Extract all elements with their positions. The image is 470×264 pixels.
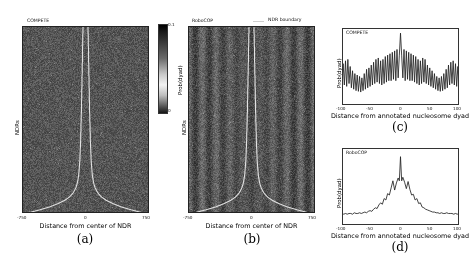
panel-c-ylabel: Prob(dyad) (336, 58, 342, 88)
panel-b-inset-label: RoboCOP (191, 18, 214, 23)
panel-c-tag: (c) (380, 120, 420, 134)
panel-b-ylabel: NDRs (181, 120, 187, 135)
panel-b-xtick-mid: 0 (250, 215, 253, 220)
panel-d-inset-label: RoboCOP (345, 150, 368, 155)
panel-d-xtick-0: -100 (336, 226, 346, 231)
panel-c-xtick-4: 100 (453, 106, 461, 111)
panel-a-xlabel: Distance from center of NDR (22, 222, 149, 230)
panel-a-xtick-min: -750 (17, 215, 27, 220)
panel-b-xtick-min: -750 (183, 215, 193, 220)
lineplot-robocop (342, 148, 459, 225)
panel-c-inset-label: COMPETE (345, 30, 369, 35)
panel-a-inset-label: COMPETE (26, 18, 50, 23)
panel-b-tag: (b) (232, 232, 272, 246)
panel-d-xtick-3: 50 (427, 226, 432, 231)
panel-d-xtick-1: -50 (366, 226, 373, 231)
panel-d-tag: (d) (380, 240, 420, 254)
panel-d-xtick-2: 0 (399, 226, 402, 231)
lineplot-d-curve (342, 148, 459, 225)
panel-c-xtick-1: -50 (366, 106, 373, 111)
panel-b-xlabel: Distance from center of NDR (188, 222, 315, 230)
colorbar-label: Prob(dyad) (177, 65, 183, 95)
ndr-boundary-overlay-a (22, 26, 149, 213)
panel-d-xlabel: Distance from annotated nucleosome dyad (330, 232, 470, 240)
panel-c-xlabel: Distance from annotated nucleosome dyad (330, 112, 470, 120)
panel-d-ylabel: Prob(dyad) (336, 178, 342, 208)
heatmap-compete (22, 26, 149, 213)
ndr-boundary-overlay-b (188, 26, 315, 213)
legend-line-sample (253, 21, 264, 22)
lineplot-compete (342, 28, 459, 105)
panel-a-ylabel: NDRs (14, 120, 20, 135)
panel-a-tag: (a) (65, 232, 105, 246)
panel-c-xtick-0: -100 (336, 106, 346, 111)
colorbar (158, 24, 168, 114)
panel-a-xtick-mid: 0 (84, 215, 87, 220)
figure-root: COMPETE NDRs -750 0 750 Distance from ce… (0, 0, 470, 264)
colorbar-tick-top: 0.1 (168, 22, 175, 27)
panel-a-xtick-max: 750 (142, 215, 150, 220)
panel-c-xtick-2: 0 (399, 106, 402, 111)
panel-c-xtick-3: 50 (427, 106, 432, 111)
panel-b-xtick-max: 750 (308, 215, 316, 220)
panel-d-xtick-4: 100 (453, 226, 461, 231)
colorbar-tick-bottom: 0 (168, 108, 171, 113)
lineplot-c-curve (342, 28, 459, 105)
legend-label: NDR boundary (267, 17, 303, 22)
heatmap-robocop (188, 26, 315, 213)
